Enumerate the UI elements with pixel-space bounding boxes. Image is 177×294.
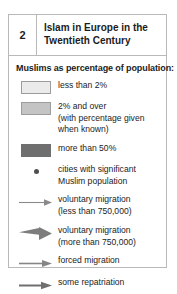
legend-body: Muslims as percentage of population: les… (9, 56, 166, 294)
legend-label: voluntary migration (more than 750,000) (56, 225, 160, 248)
legend-key (16, 194, 56, 209)
legend-label-line: voluntary migration (58, 225, 160, 237)
legend-label-line: Muslim population (58, 176, 160, 188)
legend-entry-some-repatriation: some repatriation (16, 277, 160, 292)
legend-label-line: when known) (58, 124, 160, 136)
legend-label-line: 2% and over (58, 101, 160, 113)
legend-label-line: (less than 750,000) (58, 206, 160, 218)
legend-entry-voluntary-migration-large: voluntary migration (more than 750,000) (16, 225, 160, 248)
voluntary-migration-small-arrow-icon (19, 198, 53, 207)
swatch-less-than-2-percent-icon (21, 81, 51, 94)
forced-migration-arrow-icon (19, 259, 53, 268)
legend-label-line: more than 50% (58, 143, 160, 155)
city-dot-icon (34, 169, 39, 174)
legend-title: Islam in Europe in the Twentieth Century (37, 15, 166, 55)
legend-label: some repatriation (56, 277, 160, 289)
legend-entry-2-percent-and-over: 2% and over (with percentage given when … (16, 101, 160, 136)
legend-key (16, 164, 56, 178)
legend-number: 2 (9, 15, 37, 55)
legend-label-line: some repatriation (58, 277, 160, 289)
legend-label-line: less than 2% (58, 80, 160, 92)
legend-key (16, 277, 56, 292)
legend-label: voluntary migration (less than 750,000) (56, 194, 160, 217)
legend-entry-more-than-50-percent: more than 50% (16, 143, 160, 157)
legend-label-line: forced migration (58, 255, 160, 267)
legend-key (16, 80, 56, 94)
legend-entry-forced-migration: forced migration (16, 255, 160, 270)
legend-label-line: (with percentage given (58, 113, 160, 125)
legend-label: forced migration (56, 255, 160, 267)
legend-label: less than 2% (56, 80, 160, 92)
some-repatriation-arrow-icon (19, 281, 53, 290)
legend-entry-voluntary-migration-small: voluntary migration (less than 750,000) (16, 194, 160, 217)
legend-key (16, 255, 56, 270)
map-legend-panel: 2 Islam in Europe in the Twentieth Centu… (8, 14, 167, 268)
legend-header: 2 Islam in Europe in the Twentieth Centu… (9, 15, 166, 56)
legend-label: cities with significant Muslim populatio… (56, 164, 160, 187)
legend-label-line: (more than 750,000) (58, 237, 160, 249)
legend-entry-cities: cities with significant Muslim populatio… (16, 164, 160, 187)
legend-section-title: Muslims as percentage of population: (16, 63, 160, 73)
legend-label-line: cities with significant (58, 164, 160, 176)
legend-label: more than 50% (56, 143, 160, 155)
legend-key (16, 143, 56, 157)
legend-label: 2% and over (with percentage given when … (56, 101, 160, 136)
swatch-more-than-50-percent-icon (21, 144, 51, 157)
swatch-2-percent-and-over-icon (21, 102, 51, 115)
legend-key (16, 101, 56, 115)
legend-entry-less-than-2-percent: less than 2% (16, 80, 160, 94)
voluntary-migration-large-arrow-icon (19, 227, 53, 240)
legend-label-line: voluntary migration (58, 194, 160, 206)
legend-key (16, 225, 56, 240)
